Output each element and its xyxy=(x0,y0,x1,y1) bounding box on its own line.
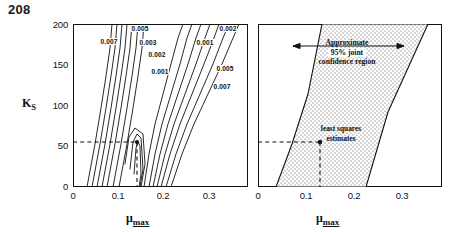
confidence-region-annotation-line2: 95% joint xyxy=(328,48,366,58)
contour-plot-panel xyxy=(73,24,248,187)
contour-label: 0.002 xyxy=(148,51,166,58)
x-axis-label-sub: max xyxy=(323,217,340,227)
x-tick-label-0.2: 0.2 xyxy=(151,190,175,201)
x-tick-label-0: 0 xyxy=(61,190,85,201)
contour-label: 0.001 xyxy=(151,68,169,75)
y-tick-label-50: 50 xyxy=(38,140,68,151)
y-axis-label-main: K xyxy=(22,96,31,110)
contour-label: 0.003 xyxy=(139,39,157,46)
page-number: 208 xyxy=(8,2,31,17)
x-axis-label-main: μ xyxy=(316,211,323,225)
least-squares-estimate-point xyxy=(135,140,139,144)
x-tick-label-0.1: 0.1 xyxy=(106,190,130,201)
contour-label: 0.007 xyxy=(100,38,118,45)
contour-label: 0.007 xyxy=(213,83,231,90)
least-squares-estimates-annotation: least squares estimates xyxy=(296,124,386,143)
confidence-region-annotation-line1: Approximate xyxy=(288,38,406,48)
x-axis-label-sub: max xyxy=(133,217,150,227)
contour-lines-right-branch xyxy=(144,24,239,187)
x-axis-label-main: μ xyxy=(126,211,133,225)
confidence-region-annotation-line3: confidence region xyxy=(288,57,406,67)
x-tick-label-0: 0 xyxy=(246,190,270,201)
x-tick-label-0.3: 0.3 xyxy=(390,190,414,201)
contour-label: 0.005 xyxy=(216,65,234,72)
contour-label: 0.001 xyxy=(196,39,214,46)
confidence-region-annotation: Approximate 95% joint confidence region xyxy=(288,38,406,67)
x-tick-label-0.3: 0.3 xyxy=(197,190,221,201)
least-squares-estimates-line2: estimates xyxy=(296,134,386,144)
contour-label: 0.005 xyxy=(131,25,149,32)
contour-plot-svg xyxy=(73,24,248,187)
least-squares-estimates-line1: least squares xyxy=(296,124,386,134)
y-tick-label-150: 150 xyxy=(38,59,68,70)
x-tick-label-0.2: 0.2 xyxy=(342,190,366,201)
y-axis-label: KS xyxy=(22,96,36,112)
y-axis-label-sub: S xyxy=(31,102,36,112)
y-tick-label-200: 200 xyxy=(38,19,68,30)
contour-label: 0.002 xyxy=(219,25,237,32)
x-axis-label-left: μmax xyxy=(126,211,149,227)
contour-lines-left-branch xyxy=(87,24,144,187)
y-tick-label-100: 100 xyxy=(38,100,68,111)
x-axis-label-right: μmax xyxy=(316,211,339,227)
x-tick-label-0.1: 0.1 xyxy=(294,190,318,201)
